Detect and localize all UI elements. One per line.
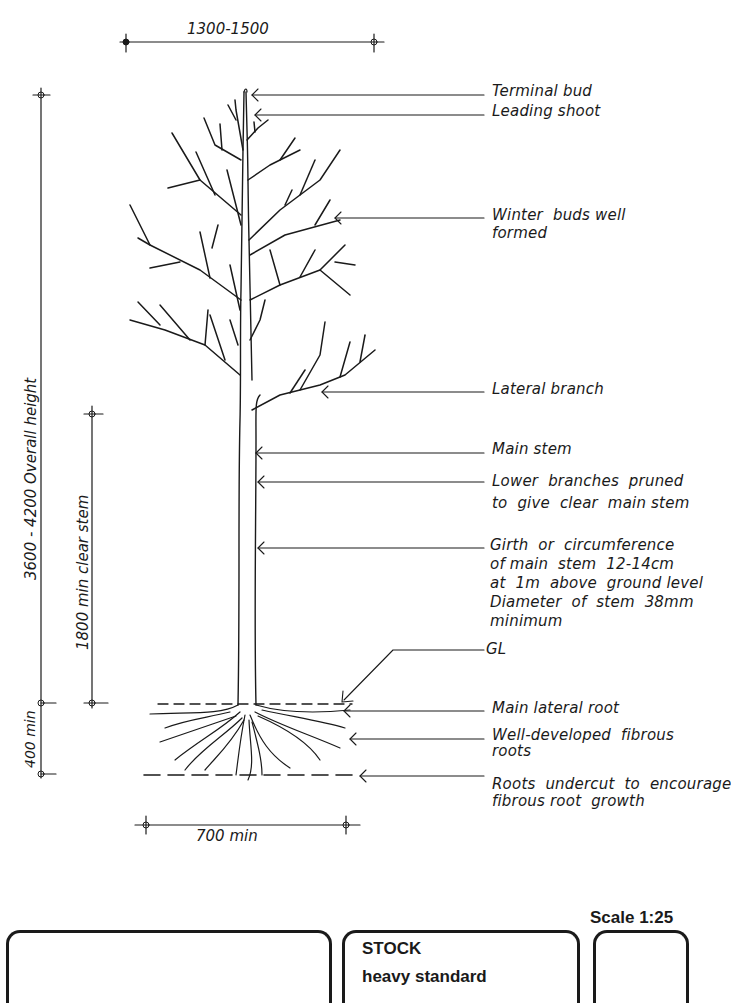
stock-value: heavy standard — [362, 967, 487, 987]
label-lower-branches: Lower branches pruned to give clear main… — [492, 470, 689, 514]
stock-box: STOCK heavy standard — [342, 930, 580, 1003]
crown-branches — [130, 100, 375, 410]
label-gl: GL — [486, 640, 506, 658]
label-lateral-branch: Lateral branch — [492, 380, 604, 398]
label-girth: Girth or circumference of main stem 12-1… — [490, 536, 703, 631]
root-spread-label: 700 min — [196, 827, 258, 845]
label-main-stem: Main stem — [492, 440, 572, 458]
title-block-left-box — [6, 930, 332, 1003]
scale-label: Scale 1:25 — [590, 908, 673, 928]
stock-heading: STOCK — [362, 939, 421, 959]
leader-lines — [252, 89, 484, 782]
root-depth-label: 400 min — [22, 710, 38, 768]
label-roots-undercut: Roots undercut to encourage fibrous root… — [492, 776, 731, 810]
overall-height-label: 3600 - 4200 Overall height — [22, 378, 40, 580]
label-leading-shoot: Leading shoot — [492, 102, 600, 120]
crown-width-label: 1300-1500 — [187, 20, 269, 38]
clear-stem-label: 1800 min clear stem — [74, 495, 92, 650]
label-fibrous-roots: Well-developed fibrous roots — [492, 727, 674, 759]
label-terminal-bud: Terminal bud — [492, 82, 592, 100]
root-system — [150, 705, 350, 780]
label-main-lateral-root: Main lateral root — [492, 699, 619, 717]
label-winter-buds: Winter buds well formed — [492, 206, 626, 242]
title-block-right-box — [593, 930, 689, 1003]
main-stem-drawing — [238, 89, 260, 705]
